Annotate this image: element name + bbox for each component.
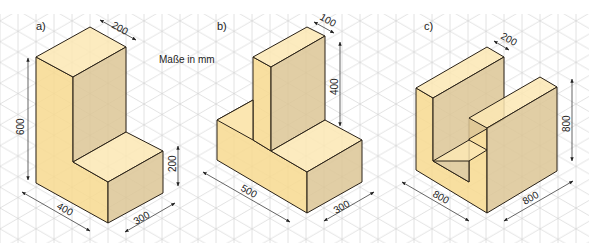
part-c-label: c) — [424, 20, 433, 32]
part-b-dim-height: 400 — [329, 78, 340, 95]
part-b-tall-left-face — [253, 57, 271, 151]
part-b-label: b) — [217, 20, 227, 32]
part-a-label: a) — [36, 20, 46, 32]
part-a-dim-height: 600 — [15, 118, 26, 135]
isometric-drawing-sheet: 200 600 200 400 300 a) — [0, 0, 589, 243]
part-c-dim-height: 800 — [561, 115, 572, 132]
units-note: Maße in mm — [159, 54, 215, 65]
part-a-dim-step-height: 200 — [167, 155, 178, 172]
